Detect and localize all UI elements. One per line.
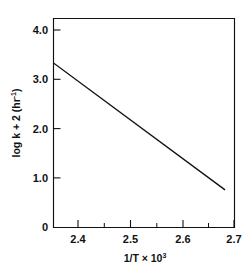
y-tick-label-0: 0	[42, 221, 48, 233]
y-axis-title-text: log k + 2 (hr	[10, 98, 22, 157]
y-tick-label-3: 3.0	[33, 73, 48, 85]
plot-frame	[54, 19, 235, 228]
data-series-group	[54, 63, 225, 189]
x-axis-title-superscript: 3	[162, 252, 166, 259]
y-tick-label-1: 1.0	[33, 172, 48, 184]
y-tick-label-2: 2.0	[33, 123, 48, 135]
x-axis-title-text: 1/T × 10	[124, 252, 163, 264]
x-axis-major-ticks	[78, 220, 234, 228]
y-axis-title-suffix: )	[10, 89, 22, 93]
y-axis-ticks	[54, 30, 61, 178]
x-axis-title: 1/T × 103	[124, 252, 167, 264]
y-tick-labels: 4.0 3.0 2.0 1.0 0	[33, 24, 48, 233]
arrhenius-plot: 4.0 3.0 2.0 1.0 0 2.4 2.5 2.6 2.7 1/T × …	[0, 0, 251, 272]
x-tick-label-2.5: 2.5	[123, 233, 138, 245]
y-axis-title: log k + 2 (hr-1)	[10, 89, 22, 158]
data-line-arrhenius-fit	[54, 63, 225, 189]
y-tick-label-4: 4.0	[33, 24, 48, 36]
axes-rectangle	[54, 19, 235, 228]
x-tick-labels: 2.4 2.5 2.6 2.7	[70, 233, 241, 245]
x-axis-minor-ticks	[104, 223, 208, 228]
x-tick-label-2.6: 2.6	[175, 233, 190, 245]
x-tick-label-2.4: 2.4	[70, 233, 86, 245]
chart-figure: 4.0 3.0 2.0 1.0 0 2.4 2.5 2.6 2.7 1/T × …	[0, 0, 251, 272]
x-tick-label-2.7: 2.7	[226, 233, 241, 245]
